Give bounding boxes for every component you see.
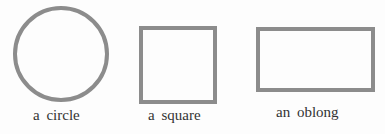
square-label: a square [148, 107, 201, 124]
oblong-label: an oblong [276, 104, 339, 121]
circle-shape [13, 6, 109, 102]
square-shape [139, 26, 217, 104]
oblong-shape [256, 27, 375, 92]
shapes-diagram: a circle a square an oblong [0, 0, 385, 134]
circle-label: a circle [33, 107, 80, 124]
